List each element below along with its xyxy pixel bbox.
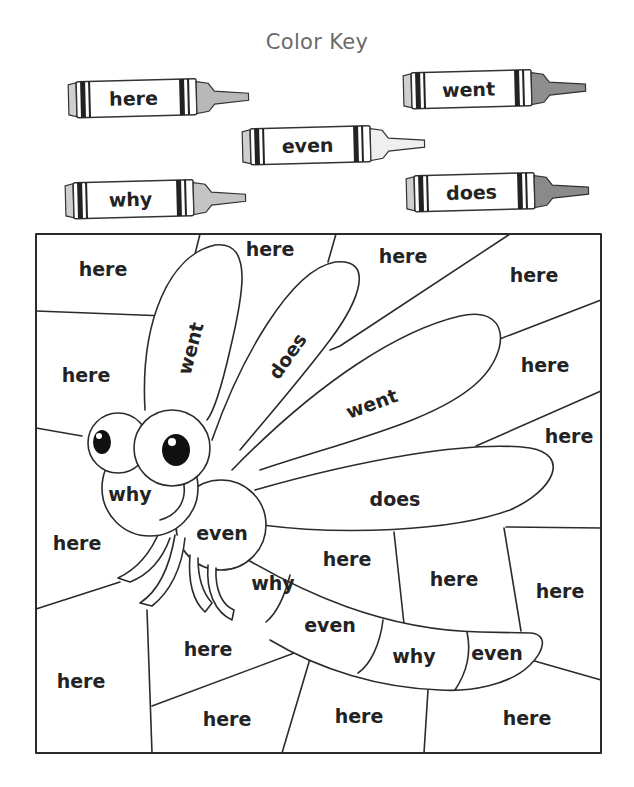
- label-bg-right-upper: here: [521, 354, 570, 376]
- label-head: why: [108, 483, 152, 505]
- pupil-left: [93, 430, 111, 454]
- region-line: [504, 528, 521, 631]
- crayon-here: here: [68, 77, 249, 118]
- crayon-went: went: [403, 68, 586, 109]
- label-bg-top-center: here: [379, 245, 428, 267]
- label-bg-top-left: here: [79, 258, 128, 280]
- label-bg-top-right: here: [510, 264, 559, 286]
- region-line: [147, 610, 152, 753]
- label-bg-center-below-wing: here: [323, 548, 372, 570]
- label-bg-bottom-left: here: [57, 670, 106, 692]
- leg: [208, 565, 234, 620]
- region-line: [506, 527, 601, 528]
- crayon-label-why: why: [109, 188, 154, 211]
- label-bg-bottom-center-upper: here: [184, 638, 233, 660]
- region-line: [394, 532, 404, 624]
- label-bg-left-lower: here: [53, 532, 102, 554]
- crayon-does: does: [406, 171, 589, 212]
- label-tail-seg-3: why: [392, 645, 436, 667]
- label-bg-right-lower: here: [536, 580, 585, 602]
- crayon-label-went: went: [442, 78, 496, 101]
- label-wing-lower: does: [370, 488, 421, 510]
- crayon-even: even: [242, 124, 425, 165]
- region-line: [36, 311, 166, 316]
- region-line: [36, 582, 120, 609]
- label-thorax: even: [196, 522, 248, 544]
- crayon-label-here: here: [109, 87, 158, 110]
- crayon-label-even: even: [281, 134, 333, 157]
- label-tail-seg-4: even: [471, 642, 523, 664]
- region-line: [36, 428, 82, 436]
- label-bg-bottom-middle: here: [335, 705, 384, 727]
- label-tail-seg-1: why: [251, 572, 295, 594]
- label-bg-bottom-right: here: [503, 707, 552, 729]
- region-line: [328, 234, 336, 262]
- label-bg-top-middle: here: [246, 238, 295, 260]
- crayon-why: why: [65, 178, 246, 219]
- region-line: [424, 690, 428, 753]
- label-bg-right-middle: here: [545, 425, 594, 447]
- region-line: [282, 652, 312, 753]
- label-tail-seg-2: even: [304, 614, 356, 636]
- region-line: [497, 300, 601, 340]
- leg: [118, 530, 170, 582]
- label-bg-center-right: here: [430, 568, 479, 590]
- worksheet-canvas: here went even why does: [0, 0, 634, 787]
- label-bg-left-upper: here: [62, 364, 111, 386]
- label-bg-bottom-center: here: [203, 708, 252, 730]
- region-line: [531, 660, 601, 680]
- pupil-right: [162, 434, 190, 466]
- crayon-label-does: does: [446, 181, 497, 204]
